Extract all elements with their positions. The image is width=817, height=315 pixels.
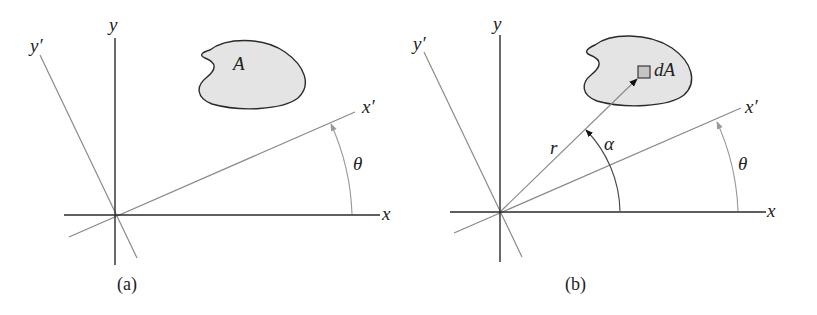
y-label-a: y [107,14,118,35]
element-dA [638,66,650,78]
x-prime-label-a: x′ [361,96,375,117]
caption-a: (a) [117,274,137,295]
y-prime-axis-b [424,52,522,257]
panel-b: dA y y′ x′ x r α θ (b) [411,13,776,295]
x-prime-axis-b [454,108,741,233]
area-a-shape [199,41,305,109]
caption-b: (b) [565,274,586,295]
theta-arc-a [331,124,352,214]
alpha-label-b: α [604,133,615,154]
x-label-b: x [766,200,776,221]
x-label-a: x [381,203,391,224]
y-label-b: y [491,13,502,34]
radius-line-b [500,79,637,212]
theta-label-a: θ [353,153,362,174]
element-label-b: dA [654,59,676,80]
radius-label-b: r [550,137,558,158]
theta-arc-b [717,122,738,211]
rotated-axes-figure: A y y′ x′ x θ (a) dA y y′ x′ x r α θ (b) [0,0,817,315]
area-label-a: A [231,53,245,74]
y-prime-label-b: y′ [411,33,426,54]
x-prime-axis-a [69,112,355,237]
theta-label-b: θ [738,153,747,174]
panel-a: A y y′ x′ x θ (a) [28,14,391,295]
y-prime-axis-a [40,55,137,258]
alpha-arc-b [586,130,620,211]
x-prime-label-b: x′ [744,96,758,117]
y-prime-label-a: y′ [28,35,43,56]
